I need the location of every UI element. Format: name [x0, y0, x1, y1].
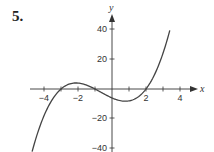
x-tick-label: 4 — [177, 93, 182, 103]
x-tick-label: 2 — [143, 93, 148, 103]
y-tick-label: 40 — [97, 24, 107, 34]
cubic-function-graph: −4 −2 2 4 40 20 −20 −40 x y — [0, 0, 214, 152]
y-axis-arrow-icon — [109, 14, 115, 22]
y-tick-label: 20 — [97, 54, 107, 64]
y-tick-label: −20 — [92, 113, 107, 123]
x-tick-label: −2 — [73, 93, 83, 103]
x-tick-label: −4 — [39, 93, 49, 103]
y-tick-label: −40 — [92, 143, 107, 152]
function-curve — [32, 30, 170, 151]
y-axis-label: y — [108, 2, 114, 13]
x-axis-arrow-icon — [190, 86, 198, 92]
x-axis-label: x — [199, 83, 205, 94]
